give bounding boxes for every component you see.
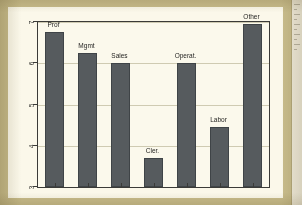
bar[interactable] — [243, 24, 262, 187]
bar[interactable] — [177, 63, 196, 187]
edge-text-line — [294, 29, 297, 30]
bar-label: Other — [232, 13, 271, 20]
bar-label: Mgmt — [67, 42, 106, 49]
x-axis-tick-mark — [88, 183, 89, 187]
gridline — [38, 63, 269, 64]
x-axis-tick-mark — [253, 183, 254, 187]
bar[interactable] — [45, 32, 64, 187]
bar-label: Cler. — [133, 147, 172, 154]
figure-card: mean of tenure 34567 ProfMgmtSalesCler.O… — [8, 7, 283, 198]
x-axis-tick-mark — [154, 183, 155, 187]
edge-text-line — [294, 14, 300, 15]
edge-text-line — [294, 39, 297, 40]
edge-text-line — [294, 9, 297, 10]
bar-label: Sales — [100, 52, 139, 59]
bar-label: Prof — [34, 21, 73, 28]
x-axis-tick-mark — [187, 183, 188, 187]
x-axis-tick-mark — [220, 183, 221, 187]
edge-text-line — [294, 44, 300, 45]
bar[interactable] — [78, 53, 97, 187]
bar[interactable] — [210, 127, 229, 187]
edge-text-line — [294, 49, 297, 50]
bar[interactable] — [111, 63, 130, 187]
edge-text-line — [294, 34, 300, 35]
bar-label: Labor — [199, 116, 238, 123]
x-axis-tick-mark — [121, 183, 122, 187]
edge-text-line — [294, 4, 300, 5]
scanned-page: mean of tenure 34567 ProfMgmtSalesCler.O… — [0, 0, 302, 205]
bar-label: Operat. — [166, 52, 205, 59]
edge-text-line — [294, 24, 300, 25]
gridline — [38, 105, 269, 106]
x-axis-tick-mark — [55, 183, 56, 187]
page-edge-text-column — [291, 0, 302, 205]
edge-text-line — [294, 19, 297, 20]
